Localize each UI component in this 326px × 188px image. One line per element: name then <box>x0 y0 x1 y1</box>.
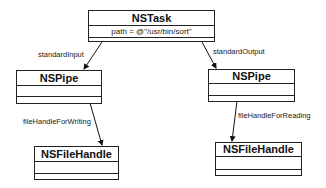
label-file-handle-for-reading: fileHandleForReading <box>238 111 311 120</box>
arrow-file-handle-for-reading <box>232 101 237 141</box>
class-methods <box>209 96 294 103</box>
class-nspipe-output: NSPipe <box>208 69 295 102</box>
class-name: NSFileHandle <box>216 143 301 157</box>
class-nspipe-input: NSPipe <box>16 70 102 104</box>
class-name: NSPipe <box>209 70 294 84</box>
class-attributes <box>209 84 294 96</box>
label-file-handle-for-writing: fileHandleForWriting <box>23 117 91 126</box>
label-standard-output: standardOutput <box>213 47 265 56</box>
class-name: NSFileHandle <box>35 147 118 162</box>
label-standard-input: standardInput <box>38 50 84 59</box>
class-methods <box>17 97 101 105</box>
class-attributes <box>216 157 301 170</box>
class-attribute: path = @"/usr/bin/sort" <box>89 26 214 38</box>
class-nsfilehandle-reading: NSFileHandle <box>215 142 302 176</box>
class-attributes <box>17 86 101 97</box>
class-attributes <box>35 162 118 174</box>
class-nstask: NSTask path = @"/usr/bin/sort" <box>88 10 215 42</box>
class-methods <box>216 170 301 177</box>
class-methods <box>89 38 214 43</box>
class-name: NSPipe <box>17 71 101 86</box>
class-name: NSTask <box>89 11 214 26</box>
class-methods <box>35 174 118 181</box>
arrow-file-handle-for-writing <box>90 103 102 145</box>
class-nsfilehandle-writing: NSFileHandle <box>34 146 119 180</box>
arrow-standard-input <box>84 42 102 69</box>
